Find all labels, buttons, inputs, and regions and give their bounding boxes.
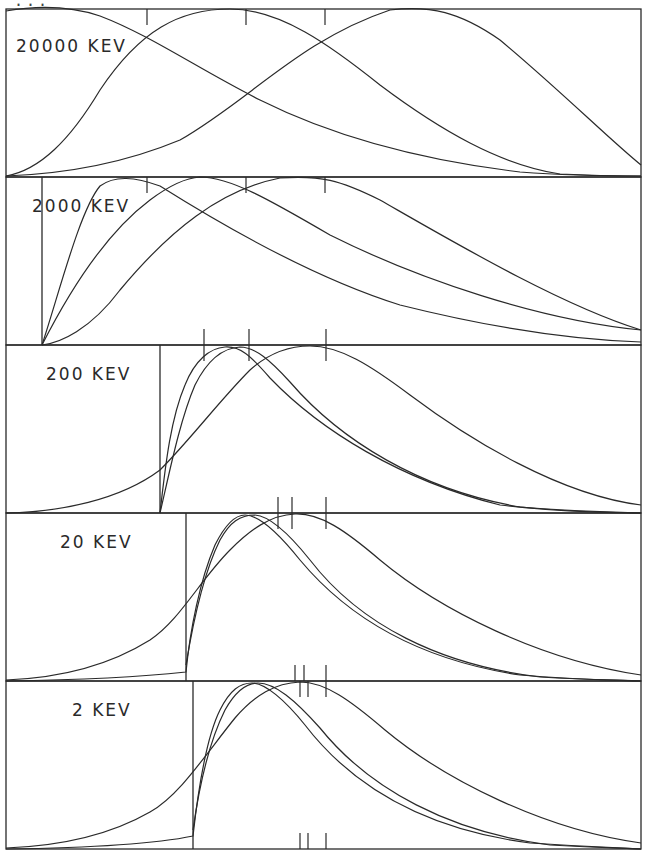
panel-label: 2000 KEV: [32, 196, 130, 216]
curve-3: [42, 177, 641, 345]
panel-label: 20000 KEV: [16, 36, 127, 56]
panel-label: 200 KEV: [46, 364, 131, 384]
curve-1: [42, 178, 641, 345]
curve-2: [6, 9, 641, 176]
curve-2: [42, 177, 641, 345]
curve-1: [160, 347, 641, 513]
panel-20-kev: 20 KEV: [6, 513, 641, 681]
curve-1: [6, 7, 641, 176]
curve-2: [186, 515, 641, 681]
panel-label: 20 KEV: [60, 532, 133, 552]
panel-200-kev: 200 KEV: [6, 345, 641, 513]
curve-2: [160, 347, 641, 513]
panel-20000-kev: 20000 KEV: [6, 7, 641, 177]
curve-3: [6, 9, 641, 176]
curve-2: [193, 683, 641, 849]
panel-frame: [6, 9, 641, 177]
panel-label: 2 KEV: [72, 700, 132, 720]
panels-group: 20000 KEV2000 KEV200 KEV20 KEV2 KEV: [6, 7, 641, 849]
panel-2000-kev: 2000 KEV: [6, 177, 641, 345]
figure-canvas: ... 20000 KEV2000 KEV200 KEV20 KEV2 KEV: [0, 0, 646, 852]
panel-2-kev: 2 KEV: [6, 681, 641, 849]
